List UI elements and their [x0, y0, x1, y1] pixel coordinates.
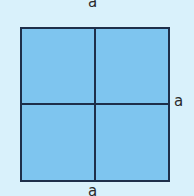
outer-square [20, 27, 170, 182]
horizontal-divider [22, 103, 168, 105]
label-bottom: a [88, 184, 97, 196]
label-right: a [174, 94, 183, 109]
label-top: a [88, 0, 97, 10]
